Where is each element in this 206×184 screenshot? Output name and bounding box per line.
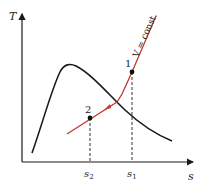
state-point-1 xyxy=(130,70,135,75)
direction-arrow-icon xyxy=(104,104,111,110)
y-axis-label: T xyxy=(9,10,18,23)
state-label-2: 2 xyxy=(85,104,91,115)
saturation-dome-curve xyxy=(32,64,172,153)
state-point-2 xyxy=(88,116,93,121)
tick-label-s2: s2 xyxy=(84,168,94,181)
state-label-1: 1 xyxy=(125,58,131,69)
x-axis-label: s xyxy=(188,170,194,183)
ts-diagram: T s 1 2 s2 s1 V = const. xyxy=(0,0,206,184)
tick-label-s1: s1 xyxy=(127,168,137,181)
process-line-label: V = const. xyxy=(130,12,159,60)
